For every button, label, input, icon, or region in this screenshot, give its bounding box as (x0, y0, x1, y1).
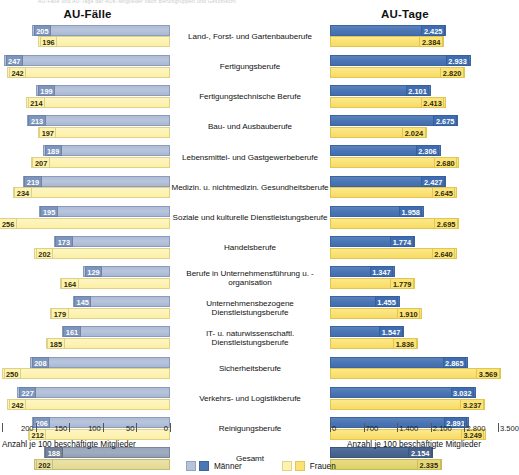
row-bars-au-tage: 1.4551.910 (330, 294, 498, 324)
bar-au-tage-male: 2.427 (330, 176, 446, 187)
bar-au-faelle-female: 185 (46, 338, 170, 349)
bar-value-label: 214 (28, 97, 45, 108)
bar-au-tage-male: 1.347 (330, 266, 395, 277)
bar-fill (2, 368, 170, 379)
bar-value-label: 247 (6, 55, 23, 66)
bar-au-tage-male: 1.958 (330, 206, 424, 217)
legend-label-frauen: Frauen (310, 462, 336, 471)
bar-au-tage-female: 1.779 (330, 278, 415, 289)
bar-value-label: 145 (74, 296, 91, 307)
bar-au-faelle-female: 234 (13, 187, 170, 198)
row-bars-au-faelle: 213197 (2, 113, 170, 143)
bar-value-label: 2.427 (421, 176, 445, 187)
row-bars-au-tage: 2.4252.384 (330, 22, 498, 52)
row-bars-au-faelle: 188202 (2, 445, 170, 475)
bar-au-faelle-female: 197 (38, 127, 170, 138)
bar-au-faelle-male: 205 (32, 25, 170, 36)
bar-au-faelle-female: 256 (0, 218, 170, 229)
bar-fill (26, 97, 170, 108)
bar-au-faelle-male: 247 (4, 55, 170, 66)
bar-value-label: 2.645 (432, 187, 456, 198)
bar-au-tage-female: 2.413 (330, 97, 446, 108)
row-bars-au-faelle: 227242 (2, 384, 170, 414)
bar-au-tage-male: 1.547 (330, 326, 404, 337)
legend-item-maenner[interactable]: Männer (186, 461, 242, 471)
bar-au-faelle-male: 129 (83, 266, 170, 277)
axis-tickmark (103, 423, 104, 432)
row-bars-au-faelle: 247242 (2, 52, 170, 82)
row-bars-au-faelle: 161185 (2, 324, 170, 354)
category-label: Unternehmensbezogene Dienstleistungsberu… (170, 294, 330, 324)
bar-fill (39, 206, 170, 217)
bar-au-tage-female: 2.695 (330, 218, 459, 229)
bar-au-tage-male: 2.675 (330, 115, 458, 126)
axis-tickmark (397, 423, 398, 432)
bar-value-label: 129 (85, 266, 102, 277)
bar-value-label: 2.640 (432, 248, 456, 259)
axis-tickmark (136, 423, 137, 432)
bar-au-tage-female: 3.237 (330, 399, 485, 410)
row-bars-au-tage: 1.3471.779 (330, 264, 498, 294)
bar-value-label: 2.865 (443, 357, 467, 368)
chart-row: 145179Unternehmensbezogene Dienstleistun… (0, 294, 500, 324)
bar-value-label: 1.958 (399, 206, 423, 217)
axis-tickmark (330, 423, 331, 432)
bar-au-tage-male: 2.933 (330, 55, 471, 66)
axis-caption-left: Anzahl je 100 beschäftigte Mitglieder (2, 440, 136, 449)
axis-tickmark (69, 423, 70, 432)
bar-au-tage-male: 2.101 (330, 85, 431, 96)
bar-fill (36, 85, 170, 96)
axis-tick-label: 200 (20, 424, 34, 433)
bar-fill (7, 67, 170, 78)
axis-tickmark (170, 423, 171, 432)
bar-value-label: 185 (47, 338, 64, 349)
row-bars-au-tage: 2.6752.024 (330, 113, 498, 143)
bar-value-label: 3.237 (460, 399, 484, 410)
panel-title-au-tage: AU-Tage (310, 8, 500, 20)
row-bars-au-faelle: 208250 (2, 354, 170, 384)
bar-value-label: 227 (19, 387, 36, 398)
bar-value-label: 196 (40, 36, 57, 47)
axis-tick-label: 700 (366, 424, 379, 433)
bar-au-faelle-female: 164 (60, 278, 170, 289)
category-label: Reinigungsberufe (170, 414, 330, 444)
axis-tick-label: 2.800 (466, 424, 485, 433)
bar-au-faelle-female: 242 (7, 399, 170, 410)
bar-value-label: 1.836 (393, 338, 417, 349)
axis-tick-label: 150 (53, 424, 67, 433)
row-bars-au-tage: 2.9332.820 (330, 52, 498, 82)
bar-au-faelle-female: 179 (50, 308, 170, 319)
axis-right: 07001.4002.1002.8003.500 (330, 424, 498, 438)
legend-item-frauen[interactable]: Frauen (282, 461, 336, 471)
axis-tick-label: 3.500 (500, 424, 519, 433)
bar-fill (30, 357, 170, 368)
axis-tickmark (364, 423, 365, 432)
bar-fill (34, 248, 170, 259)
panel-title-au-faelle: AU-Fälle (0, 8, 175, 20)
category-label: Berufe in Unternehmensführung u. -organi… (170, 264, 330, 294)
row-bars-au-faelle: 173202 (2, 233, 170, 263)
bar-fill (0, 218, 170, 229)
category-label: IT- u. naturwissenschaftl. Dienstleistun… (170, 324, 330, 354)
bar-au-faelle-male: 208 (30, 357, 170, 368)
bar-au-tage-female: 1.910 (330, 308, 422, 319)
row-bars-au-tage: 3.0323.237 (330, 384, 498, 414)
bar-au-tage-female: 3.569 (330, 368, 501, 379)
axis-tick-label: 100 (87, 424, 101, 433)
bar-au-faelle-male: 227 (17, 387, 170, 398)
category-label: Lebensmittel- und Gastgewerbeberufe (170, 143, 330, 173)
bar-value-label: 197 (39, 127, 56, 138)
category-label: Fertigungstechnische Berufe (170, 82, 330, 112)
bar-fill (38, 36, 170, 47)
axis-tick-label: 1.400 (399, 424, 418, 433)
row-bars-au-faelle: 219234 (2, 173, 170, 203)
bar-value-label: 195 (40, 206, 57, 217)
axis-caption-right: Anzahl je 100 beschäftigte Mitglieder (330, 440, 498, 449)
bar-value-label: 234 (14, 187, 31, 198)
bar-value-label: 2.675 (433, 115, 457, 126)
chart-row: 219234Medizin. u. nichtmedizin. Gesundhe… (0, 173, 500, 203)
bar-au-faelle-female: 202 (34, 459, 170, 470)
chart-row: 173202Handelsberufe1.7742.640 (0, 233, 500, 263)
bar-au-tage-male: 2.865 (330, 357, 468, 368)
